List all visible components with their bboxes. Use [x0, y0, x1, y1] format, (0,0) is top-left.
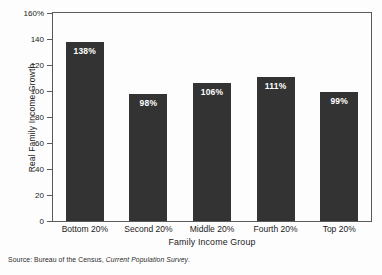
y-tick-label: 40	[0, 165, 44, 174]
bar-slot: 138%	[66, 42, 104, 221]
source-italic: Current Population Survey	[106, 256, 188, 263]
x-axis-title: Family Income Group	[52, 237, 372, 247]
bar-slot: 106%	[193, 83, 231, 221]
y-tick-label: 160%	[0, 9, 44, 18]
y-tick-label: 60	[0, 139, 44, 148]
bar[interactable]: 106%	[193, 83, 231, 221]
bar-value-label: 98%	[129, 98, 167, 108]
bar-slot: 99%	[320, 92, 358, 221]
source-suffix: .	[188, 256, 190, 263]
bars-container: 138%98%106%111%99%	[53, 13, 371, 221]
x-tick-label: Bottom 20%	[50, 224, 120, 234]
bar[interactable]: 138%	[66, 42, 104, 221]
y-tick-label: 140	[0, 35, 44, 44]
x-tick-label: Second 20%	[113, 224, 183, 234]
bar-value-label: 111%	[257, 81, 295, 91]
bar[interactable]: 98%	[129, 94, 167, 221]
y-tick-label: 20	[0, 191, 44, 200]
bar-slot: 111%	[257, 77, 295, 221]
y-tick-label: 100	[0, 87, 44, 96]
bar[interactable]: 99%	[320, 92, 358, 221]
y-tick-label: 0	[0, 217, 44, 226]
y-tick-label: 120	[0, 61, 44, 70]
source-prefix: Source: Bureau of the Census,	[8, 256, 106, 263]
x-tick-label: Fourth 20%	[241, 224, 311, 234]
source-note: Source: Bureau of the Census, Current Po…	[8, 256, 190, 263]
x-tick-label: Top 20%	[304, 224, 374, 234]
y-tick-label: 80	[0, 113, 44, 122]
bar-value-label: 138%	[66, 46, 104, 56]
x-axis-tick-labels: Bottom 20%Second 20%Middle 20%Fourth 20%…	[53, 224, 371, 238]
chart-figure: Real Family Income Growth 02040608010012…	[0, 0, 382, 275]
bar[interactable]: 111%	[257, 77, 295, 221]
bar-slot: 98%	[129, 94, 167, 221]
bar-value-label: 99%	[320, 96, 358, 106]
bar-value-label: 106%	[193, 87, 231, 97]
x-tick-label: Middle 20%	[177, 224, 247, 234]
